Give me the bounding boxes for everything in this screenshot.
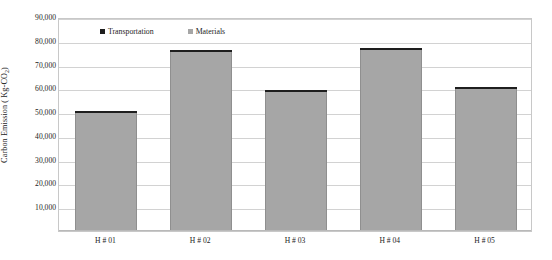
y-axis-tick-label: 80,000 (12, 38, 56, 46)
y-axis-title-text: Carbon Emission ( Kg-CO (0, 73, 9, 163)
legend-label: Transportation (108, 27, 154, 36)
x-axis-tick-labels: H # 01H # 02H # 03H # 04H # 05 (58, 236, 532, 250)
bar-group (265, 17, 327, 231)
legend-swatch-icon (100, 29, 105, 34)
bar-segment-materials (265, 92, 327, 231)
y-axis-tick-label: 40,000 (12, 133, 56, 141)
y-axis-tick-label: 20,000 (12, 180, 56, 188)
y-axis-tick-label: 90,000 (12, 14, 56, 22)
y-axis-tick-label: 10,000 (12, 204, 56, 212)
bars-layer (59, 19, 531, 231)
bar-group (360, 17, 422, 231)
x-axis-tick-label: H # 02 (153, 236, 248, 246)
bar-segment-transportation (75, 111, 137, 113)
bar-segment-transportation (455, 87, 517, 89)
y-axis-tick-label: 30,000 (12, 157, 56, 165)
y-axis-tick-label: 50,000 (12, 109, 56, 117)
plot-area (58, 18, 532, 232)
bar-segment-materials (75, 113, 137, 231)
bar-segment-transportation (170, 50, 232, 52)
legend-swatch-icon (188, 29, 193, 34)
y-axis-tick-label: 70,000 (12, 62, 56, 70)
x-axis-tick-label: H # 01 (58, 236, 153, 246)
legend-item: Materials (188, 27, 225, 36)
x-axis-tick-label: H # 03 (248, 236, 343, 246)
bar-segment-transportation (360, 48, 422, 50)
bar-group (75, 17, 137, 231)
legend-item: Transportation (100, 27, 154, 36)
x-axis-tick-label: H # 05 (437, 236, 532, 246)
y-axis-tick-label: 60,000 (12, 85, 56, 93)
x-axis-tick-label: H # 04 (342, 236, 437, 246)
chart-legend: TransportationMaterials (100, 25, 225, 37)
bar-segment-transportation (265, 90, 327, 92)
bar-group (170, 17, 232, 231)
carbon-emission-bar-chart: Carbon Emission ( Kg-CO2) 90,00080,00070… (0, 0, 552, 260)
y-axis-tick-labels: 90,00080,00070,00060,00050,00040,00030,0… (12, 0, 56, 260)
bar-group (455, 17, 517, 231)
legend-label: Materials (196, 27, 225, 36)
bar-segment-materials (170, 52, 232, 231)
x-axis-baseline (59, 230, 531, 231)
bar-segment-materials (455, 89, 517, 231)
bar-segment-materials (360, 50, 422, 231)
y-axis-title-subscript: 2 (4, 70, 10, 73)
